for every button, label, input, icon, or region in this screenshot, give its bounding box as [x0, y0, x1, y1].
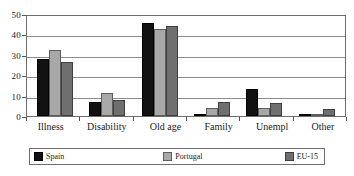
- legend-label: Portugal: [175, 152, 202, 161]
- x-axis-tick-label: Old age: [150, 121, 181, 133]
- x-axis-tick-label: Other: [312, 121, 335, 133]
- bar-eu-15-disability[interactable]: [113, 100, 125, 116]
- plot-area: 01020304050 IllnessDisabilityOld ageFami…: [0, 0, 354, 138]
- bar-portugal-illness[interactable]: [49, 50, 61, 116]
- x-axis-tick-label: Illness: [38, 121, 64, 133]
- y-axis-tick-label: 40: [12, 31, 21, 40]
- bar-group-other: [299, 16, 335, 116]
- y-axis-tick-label: 0: [16, 113, 21, 122]
- chart-legend: SpainPortugalEU-15: [29, 148, 325, 165]
- bar-eu-15-other[interactable]: [323, 109, 335, 116]
- y-axis-tick-labels: 01020304050: [0, 0, 26, 122]
- bar-groups: [27, 16, 345, 116]
- bar-group-family: [194, 16, 230, 116]
- bar-eu-15-old-age[interactable]: [166, 26, 178, 116]
- bar-portugal-unempl[interactable]: [258, 108, 270, 116]
- bar-spain-disability[interactable]: [89, 102, 101, 116]
- plot-frame: [26, 15, 346, 117]
- legend-swatch-icon: [285, 152, 294, 161]
- x-axis-tick-labels: IllnessDisabilityOld ageFamilyUnemplOthe…: [26, 121, 346, 133]
- y-axis-tick-label: 30: [12, 51, 21, 60]
- bar-eu-15-family[interactable]: [218, 102, 230, 116]
- legend-item-spain[interactable]: Spain: [30, 152, 155, 161]
- bar-spain-unempl[interactable]: [246, 89, 258, 116]
- x-axis-tick-label: Unempl: [256, 121, 288, 133]
- bar-chart: 01020304050 IllnessDisabilityOld ageFami…: [0, 0, 354, 176]
- bar-spain-other[interactable]: [299, 114, 311, 116]
- bar-group-unempl: [246, 16, 282, 116]
- legend-swatch-icon: [163, 152, 172, 161]
- legend-label: Spain: [46, 152, 64, 161]
- y-axis-tick-label: 20: [12, 72, 21, 81]
- bar-portugal-old-age[interactable]: [154, 29, 166, 116]
- bar-spain-illness[interactable]: [37, 59, 49, 116]
- legend-item-eu-15[interactable]: EU-15: [285, 152, 324, 161]
- legend-item-portugal[interactable]: Portugal: [155, 152, 284, 161]
- bar-spain-old-age[interactable]: [142, 23, 154, 116]
- bar-spain-family[interactable]: [194, 114, 206, 116]
- legend-label: EU-15: [297, 152, 318, 161]
- bar-group-illness: [37, 16, 73, 116]
- bar-group-old-age: [142, 16, 178, 116]
- bar-eu-15-unempl[interactable]: [270, 103, 282, 116]
- y-axis-tick-label: 50: [12, 11, 21, 20]
- x-axis: IllnessDisabilityOld ageFamilyUnemplOthe…: [26, 117, 346, 138]
- x-axis-tick: [346, 117, 347, 121]
- bar-portugal-family[interactable]: [206, 108, 218, 116]
- legend-swatch-icon: [34, 152, 43, 161]
- bar-portugal-disability[interactable]: [101, 93, 113, 116]
- bar-eu-15-illness[interactable]: [61, 62, 73, 116]
- y-axis-tick-label: 10: [12, 92, 21, 101]
- x-axis-tick-label: Family: [204, 121, 232, 133]
- bar-portugal-other[interactable]: [311, 114, 323, 116]
- bar-group-disability: [89, 16, 125, 116]
- x-axis-tick-label: Disability: [87, 121, 126, 133]
